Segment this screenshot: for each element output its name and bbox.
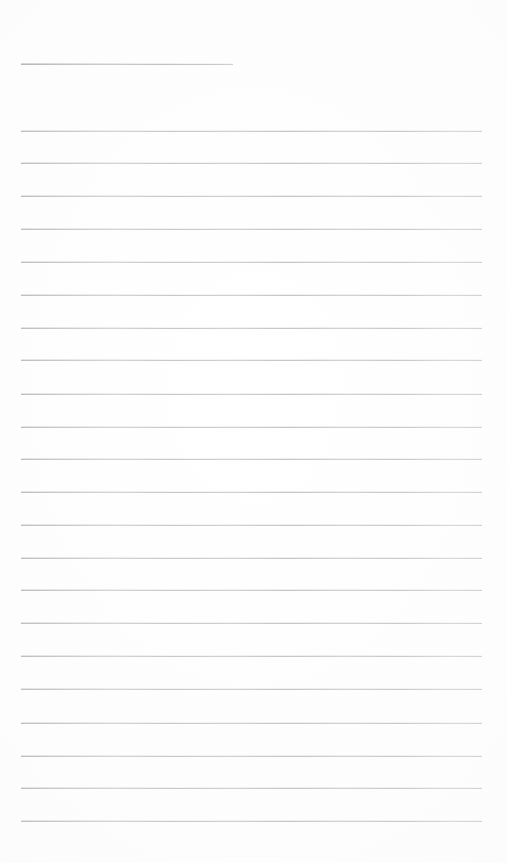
ruled-line: [21, 525, 482, 526]
ruled-line: [21, 131, 482, 132]
ruled-line: [21, 558, 482, 559]
ruled-page: [0, 0, 507, 863]
ruled-line: [21, 328, 482, 329]
ruled-line: [21, 656, 482, 657]
ruled-line: [21, 821, 482, 822]
ruled-line: [21, 459, 482, 460]
ruled-line: [21, 788, 482, 789]
ruled-line: [21, 689, 482, 690]
ruled-line: [21, 590, 482, 591]
ruled-line: [21, 295, 482, 296]
ruled-line: [21, 196, 482, 197]
ruled-line: [21, 163, 482, 164]
header-underline-rule: [21, 64, 233, 65]
ruled-line: [21, 492, 482, 493]
ruled-line: [21, 262, 482, 263]
ruled-line: [21, 723, 482, 724]
ruled-line: [21, 427, 482, 428]
ruled-line: [21, 756, 482, 757]
ruled-line: [21, 229, 482, 230]
ruled-line: [21, 360, 482, 361]
ruled-line: [21, 623, 482, 624]
ruled-line: [21, 394, 482, 395]
